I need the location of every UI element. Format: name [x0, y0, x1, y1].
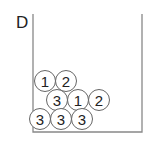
balls-group: 12312333	[30, 71, 110, 130]
ball: 3	[47, 90, 68, 111]
ball-number: 1	[41, 73, 49, 90]
ball-number: 3	[53, 92, 61, 109]
ball-number: 3	[36, 111, 44, 128]
ball: 2	[56, 71, 77, 92]
ball: 3	[72, 109, 93, 130]
ball: 1	[68, 90, 89, 111]
container-diagram: 12312333	[0, 0, 144, 145]
ball-number: 2	[95, 92, 103, 109]
ball-number: 3	[78, 111, 86, 128]
ball: 1	[35, 71, 56, 92]
ball: 3	[51, 109, 72, 130]
ball-number: 1	[74, 92, 82, 109]
ball-number: 2	[62, 73, 70, 90]
ball-number: 3	[57, 111, 65, 128]
ball: 2	[89, 90, 110, 111]
ball: 3	[30, 109, 51, 130]
